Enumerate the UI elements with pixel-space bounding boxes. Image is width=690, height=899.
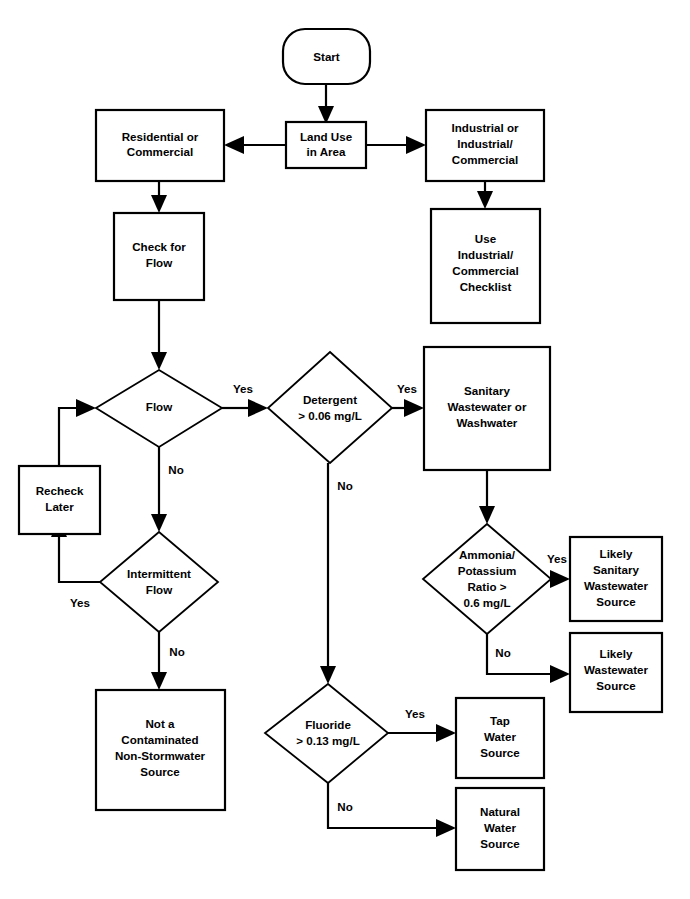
node-checklist-line-3: Checklist	[460, 280, 512, 293]
node-fluoride-decision[interactable]: Fluoride > 0.13 mg/L	[265, 684, 388, 783]
edge-label-ammonia-no: No	[495, 646, 510, 659]
node-sanitary-line-2: Washwater	[457, 416, 518, 429]
node-likely-wastewater-source[interactable]: Likely Wastewater Source	[570, 633, 662, 712]
node-detergent-line-1: > 0.06 mg/L	[298, 409, 361, 422]
edge-recheck-to-flow	[59, 399, 96, 466]
node-checklist-line-0: Use	[475, 232, 497, 245]
node-natural-water-line-2: Source	[480, 837, 520, 850]
edge-label-fluoride-yes: Yes	[405, 707, 425, 720]
node-natural-water-source[interactable]: Natural Water Source	[456, 788, 544, 870]
node-residential-line-1: Commercial	[127, 145, 193, 158]
edge-residential-to-check-flow	[151, 181, 167, 213]
node-land-use-in-area[interactable]: Land Use in Area	[286, 122, 366, 168]
node-use-industrial-checklist[interactable]: Use Industrial/ Commercial Checklist	[431, 209, 540, 323]
node-check-flow-line-0: Check for	[132, 240, 186, 253]
flowchart-svg: Start Land Use in Area Residential or Co…	[0, 0, 690, 899]
node-land-use-line-1: in Area	[307, 145, 346, 158]
edge-label-detergent-no: No	[337, 479, 352, 492]
node-ammonia-line-0: Ammonia/	[459, 548, 516, 561]
node-fluoride-line-1: > 0.13 mg/L	[296, 734, 359, 747]
node-flow-decision[interactable]: Flow	[96, 370, 222, 447]
node-start-label: Start	[313, 50, 340, 63]
node-industrial-line-2: Commercial	[452, 153, 518, 166]
node-not-contaminated-line-1: Contaminated	[121, 733, 198, 746]
node-check-for-flow[interactable]: Check for Flow	[114, 213, 204, 300]
node-not-contaminated-line-3: Source	[140, 765, 180, 778]
node-likely-wastewater-line-2: Source	[596, 679, 636, 692]
node-not-contaminated-source[interactable]: Not a Contaminated Non-Stormwater Source	[96, 690, 225, 810]
edge-label-fluoride-no: No	[337, 800, 352, 813]
node-ammonia-line-1: Potassium	[458, 564, 517, 577]
node-ammonia-potassium-decision[interactable]: Ammonia/ Potassium Ratio > 0.6 mg/L	[423, 524, 551, 634]
edge-sanitary-to-ammonia	[479, 470, 495, 524]
node-ammonia-line-2: Ratio >	[468, 580, 507, 593]
node-tap-water-line-2: Source	[480, 746, 520, 759]
node-recheck-later[interactable]: Recheck Later	[19, 466, 100, 534]
node-residential-or-commercial[interactable]: Residential or Commercial	[96, 110, 224, 181]
node-ammonia-line-3: 0.6 mg/L	[463, 596, 510, 609]
edge-fluoride-yes-to-tap-water	[388, 724, 456, 742]
edge-check-flow-to-flow	[151, 300, 167, 370]
node-sanitary-line-0: Sanitary	[464, 384, 510, 397]
edge-ammonia-yes-to-likely-sanitary	[550, 570, 570, 588]
node-checklist-line-1: Industrial/	[458, 248, 514, 261]
node-not-contaminated-line-2: Non-Stormwater	[115, 749, 206, 762]
node-sanitary-line-1: Wastewater or	[448, 400, 527, 413]
node-recheck-line-1: Later	[45, 500, 74, 513]
node-intermittent-line-1: Flow	[146, 583, 173, 596]
node-tap-water-line-0: Tap	[490, 714, 510, 727]
node-start[interactable]: Start	[283, 29, 370, 84]
node-checklist-line-2: Commercial	[452, 264, 518, 277]
edge-land-use-to-industrial	[366, 136, 426, 154]
edge-flow-yes-to-detergent	[222, 399, 268, 417]
node-check-flow-line-1: Flow	[146, 256, 173, 269]
node-industrial-line-0: Industrial or	[452, 121, 519, 134]
edge-flow-no-to-intermittent	[151, 447, 167, 532]
node-likely-sanitary-line-2: Wastewater	[584, 579, 648, 592]
edge-label-ammonia-yes: Yes	[547, 552, 567, 565]
node-likely-wastewater-line-1: Wastewater	[584, 663, 648, 676]
node-detergent-line-0: Detergent	[303, 393, 357, 406]
edge-label-intermittent-no: No	[169, 645, 184, 658]
node-likely-sanitary-wastewater-source[interactable]: Likely Sanitary Wastewater Source	[570, 537, 662, 621]
edge-intermittent-no-to-not-contaminated	[151, 632, 167, 690]
edge-land-use-to-residential	[224, 136, 286, 154]
node-likely-sanitary-line-3: Source	[596, 595, 636, 608]
node-intermittent-flow-decision[interactable]: Intermittent Flow	[100, 532, 218, 632]
node-fluoride-line-0: Fluoride	[305, 718, 351, 731]
node-intermittent-line-0: Intermittent	[127, 567, 191, 580]
node-land-use-line-0: Land Use	[300, 130, 353, 143]
edge-industrial-to-checklist	[477, 180, 493, 209]
node-likely-sanitary-line-0: Likely	[600, 547, 633, 560]
node-natural-water-line-0: Natural	[480, 805, 520, 818]
node-sanitary-wastewater-or-washwater[interactable]: Sanitary Wastewater or Washwater	[424, 347, 550, 470]
node-detergent-decision[interactable]: Detergent > 0.06 mg/L	[268, 352, 392, 463]
node-not-contaminated-line-0: Not a	[146, 717, 176, 730]
node-industrial-line-1: Industrial/	[457, 137, 513, 150]
node-likely-sanitary-line-1: Sanitary	[593, 563, 639, 576]
node-natural-water-line-1: Water	[484, 821, 516, 834]
edge-label-detergent-yes: Yes	[397, 382, 417, 395]
edge-label-flow-no: No	[168, 463, 183, 476]
node-residential-line-0: Residential or	[122, 130, 199, 143]
node-recheck-line-0: Recheck	[36, 484, 84, 497]
flowchart-canvas: Start Land Use in Area Residential or Co…	[0, 0, 690, 899]
edge-detergent-yes-to-sanitary	[392, 399, 424, 417]
node-tap-water-line-1: Water	[484, 730, 516, 743]
edge-label-intermittent-yes: Yes	[70, 596, 90, 609]
edge-label-flow-yes: Yes	[233, 382, 253, 395]
node-likely-wastewater-line-0: Likely	[600, 647, 633, 660]
node-flow-label: Flow	[146, 400, 173, 413]
edge-detergent-no-to-fluoride	[320, 463, 336, 684]
node-tap-water-source[interactable]: Tap Water Source	[456, 698, 544, 778]
edge-start-to-land-use	[318, 84, 334, 124]
node-industrial-or-commercial[interactable]: Industrial or Industrial/ Commercial	[426, 110, 544, 181]
